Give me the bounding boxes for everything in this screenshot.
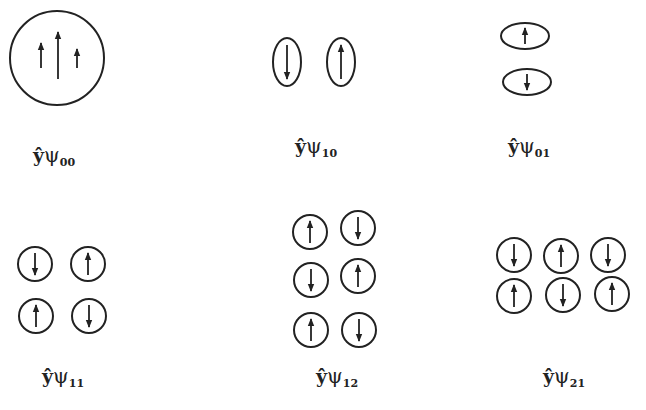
unit-vector-y: ŷ xyxy=(543,365,554,387)
mode-index: 01 xyxy=(535,147,550,160)
unit-vector-y: ŷ xyxy=(316,365,327,387)
panel-psi00 xyxy=(10,11,104,105)
arrow-up-icon xyxy=(522,27,528,35)
psi-symbol: ψ xyxy=(554,364,570,388)
arrow-up-icon xyxy=(38,42,44,50)
spin-mode-diagram: ŷψ00 ŷψ10 ŷψ01 ŷψ11 ŷψ12 ŷψ21 xyxy=(0,0,646,410)
arrow-up-icon xyxy=(609,282,615,290)
arrow-down-icon xyxy=(86,320,92,328)
psi-symbol: ψ xyxy=(519,134,535,158)
label-psi21: ŷψ21 xyxy=(543,366,585,389)
arrow-down-icon xyxy=(308,284,314,292)
psi-symbol: ψ xyxy=(53,364,69,388)
arrow-up-icon xyxy=(511,284,517,292)
arrow-up-icon xyxy=(558,244,564,252)
arrow-down-icon xyxy=(284,72,290,80)
panel-psi10 xyxy=(273,38,355,86)
mode-index: 10 xyxy=(322,147,337,160)
arrow-up-icon xyxy=(55,31,61,39)
panel-psi21 xyxy=(497,238,629,313)
panel-psi12 xyxy=(293,211,376,347)
arrow-up-icon xyxy=(338,44,344,52)
unit-vector-y: ŷ xyxy=(295,135,306,157)
mode-patterns-canvas xyxy=(0,0,646,410)
unit-vector-y: ŷ xyxy=(42,365,53,387)
label-psi00: ŷψ00 xyxy=(33,145,75,168)
arrow-up-icon xyxy=(308,318,314,326)
label-psi10: ŷψ10 xyxy=(295,136,337,159)
label-psi11: ŷψ11 xyxy=(42,366,84,389)
arrow-up-icon xyxy=(74,48,80,56)
panel-psi11 xyxy=(18,247,106,333)
mode-index: 12 xyxy=(343,377,358,390)
arrow-down-icon xyxy=(355,232,361,240)
psi-symbol: ψ xyxy=(306,134,322,158)
unit-vector-y: ŷ xyxy=(508,135,519,157)
unit-vector-y: ŷ xyxy=(33,144,44,166)
label-psi12: ŷψ12 xyxy=(316,366,358,389)
psi-symbol: ψ xyxy=(44,143,60,167)
psi-symbol: ψ xyxy=(327,364,343,388)
arrow-down-icon xyxy=(524,83,530,91)
panel-psi01 xyxy=(501,23,551,95)
arrow-down-icon xyxy=(560,299,566,307)
label-psi01: ŷψ01 xyxy=(508,136,550,159)
mode-index: 00 xyxy=(60,156,75,169)
arrow-up-icon xyxy=(307,220,313,228)
mode-index: 11 xyxy=(69,377,84,390)
mode-index: 21 xyxy=(570,377,585,390)
arrow-down-icon xyxy=(511,259,517,267)
arrow-up-icon xyxy=(33,304,39,312)
arrow-up-icon xyxy=(85,252,91,260)
arrow-down-icon xyxy=(32,268,38,276)
arrow-up-icon xyxy=(355,264,361,272)
arrow-down-icon xyxy=(605,259,611,267)
domain-outline xyxy=(10,11,104,105)
arrow-down-icon xyxy=(356,334,362,342)
